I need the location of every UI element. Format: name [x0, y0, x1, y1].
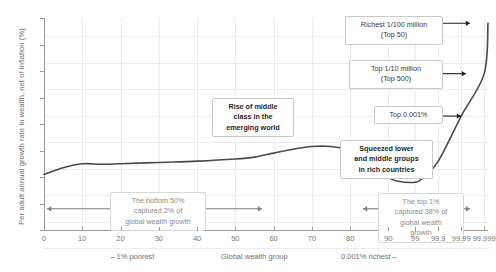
x-axis-tick-label: 20 — [116, 234, 124, 243]
x-axis-tick-mark — [312, 227, 313, 231]
x-axis-tick-mark — [438, 227, 439, 231]
annotation-line: captured 38% of — [395, 207, 447, 216]
x-axis-tick-label: 40 — [193, 234, 201, 243]
annotation-line: global wealth growth — [125, 217, 191, 226]
y-axis-tick-mark — [40, 124, 44, 125]
x-axis-tick-mark — [461, 227, 462, 231]
x-axis-tick-label: 99 — [411, 234, 419, 243]
annotation-line: Squeezed lower — [359, 144, 413, 153]
x-axis-label-left: ←1% poorest — [109, 252, 154, 261]
annotation-top-0001-percent: Top 0.001% — [374, 106, 443, 124]
annotation-bottom-50-share: The bottom 50% captured 2% of global wea… — [110, 192, 206, 231]
x-axis-tick-label: 99.99 — [452, 234, 471, 243]
x-axis-tick-mark — [82, 227, 83, 231]
x-axis-tick-mark — [235, 227, 236, 231]
x-axis-tick-mark — [274, 227, 275, 231]
x-axis-tick-label: 80 — [346, 234, 354, 243]
x-axis-tick-mark — [121, 227, 122, 231]
annotation-line: in rich countries — [359, 165, 415, 174]
x-axis-tick-mark — [388, 227, 389, 231]
x-axis-tick-mark — [350, 227, 351, 231]
x-axis-tick-label: 10 — [78, 234, 86, 243]
annotation-line: Richest 1/100 million — [361, 20, 427, 29]
annotation-richest-1-per-100-million: Richest 1/100 million (Top 50) — [345, 16, 443, 45]
annotation-line: Rise of middle — [228, 102, 277, 111]
x-axis-tick-label: 99.999 — [473, 234, 496, 243]
annotation-line: Top 1/10 million — [371, 64, 421, 73]
annotation-top-1-per-10-million: Top 1/10 million (Top 500) — [349, 60, 443, 89]
x-axis-tick-label: 90 — [384, 234, 392, 243]
annotation-squeezed-groups: Squeezed lower and middle groups in rich… — [340, 140, 433, 179]
y-axis-tick-mark — [40, 177, 44, 178]
annotation-line: emerging world — [226, 123, 280, 132]
gridline-vertical — [484, 18, 485, 230]
x-axis-label-right: 0.001% richest→ — [341, 252, 398, 261]
x-axis-label-center: Global wealth group — [221, 252, 288, 261]
x-axis-tick-label: 60 — [269, 234, 277, 243]
annotation-line: The top 1% — [403, 197, 440, 206]
y-axis-tick-mark — [40, 204, 44, 205]
gridline-horizontal — [44, 89, 488, 90]
x-axis-tick-label: 0 — [42, 234, 46, 243]
x-axis-tick-label: 50 — [231, 234, 239, 243]
annotation-line: The bottom 50% — [132, 196, 185, 205]
x-axis-tick-mark — [415, 227, 416, 231]
gridline-vertical — [312, 18, 313, 230]
y-axis-title: Per adult annual growth rate in wealth, … — [17, 17, 26, 237]
x-axis-tick-mark — [159, 227, 160, 231]
y-axis-tick-mark — [40, 151, 44, 152]
annotation-line: and middle groups — [354, 154, 418, 163]
x-axis-tick-mark — [197, 227, 198, 231]
x-axis-tick-label: 30 — [155, 234, 163, 243]
y-axis-tick-mark — [40, 18, 44, 19]
x-axis-tick-mark — [44, 227, 45, 231]
y-axis-line — [44, 18, 45, 231]
y-axis-tick-mark — [40, 45, 44, 46]
annotation-rise-of-middle-class: Rise of middle class in the emerging wor… — [212, 98, 294, 137]
x-axis-tick-label: 70 — [308, 234, 316, 243]
annotation-line: class in the — [233, 112, 272, 121]
y-axis-tick-mark — [40, 98, 44, 99]
gridline-vertical — [350, 18, 351, 230]
annotation-line: (Top 500) — [381, 74, 411, 83]
annotation-line: global wealth — [400, 218, 442, 227]
x-axis-tick-mark — [484, 227, 485, 231]
annotation-line: (Top 50) — [381, 30, 407, 39]
y-axis-tick-mark — [40, 71, 44, 72]
annotation-line: captured 2% of — [134, 206, 182, 215]
annotation-line: Top 0.001% — [390, 110, 428, 119]
gridline-vertical — [82, 18, 83, 230]
x-axis-tick-label: 99.9 — [431, 234, 446, 243]
gridline-horizontal — [44, 248, 488, 249]
